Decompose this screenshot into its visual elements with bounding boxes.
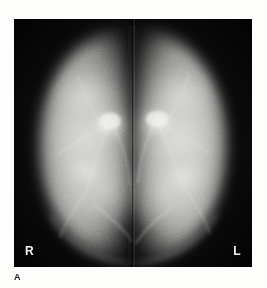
figure-caption-label: A (14, 272, 21, 282)
figure-root: R L A (0, 0, 267, 288)
mammogram-image: R L (14, 19, 252, 267)
mammogram-rendering (14, 19, 252, 267)
right-breast-marker: R (25, 245, 34, 257)
left-breast-marker: L (233, 245, 241, 257)
